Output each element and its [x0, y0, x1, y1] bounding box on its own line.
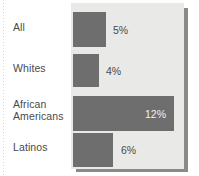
plot-area: 5% 4% 12% 6%	[71, 3, 184, 169]
bar-row: 4%	[71, 54, 184, 87]
bar-row: 12%	[71, 96, 184, 131]
bar-row: 6%	[71, 133, 184, 167]
category-label-latinos: Latinos	[13, 141, 48, 153]
bar-all	[73, 12, 106, 47]
bar-whites	[73, 54, 99, 87]
category-label-column: All Whites African Americans Latinos	[0, 0, 71, 176]
category-label-african-americans: African Americans	[13, 98, 64, 122]
bar-value-label-african-americans: 12%	[145, 108, 166, 120]
bar-chart-figure: 5% 4% 12% 6% All Whites African American…	[0, 0, 199, 176]
category-label-all: All	[13, 21, 25, 33]
category-label-whites: Whites	[13, 62, 46, 74]
bar-value-label-whites: 4%	[106, 65, 121, 77]
bars-layer: 5% 4% 12% 6%	[71, 3, 184, 169]
bar-value-label-all: 5%	[113, 24, 128, 36]
bar-latinos	[73, 133, 113, 167]
bar-row: 5%	[71, 12, 184, 47]
bar-value-label-latinos: 6%	[121, 144, 136, 156]
